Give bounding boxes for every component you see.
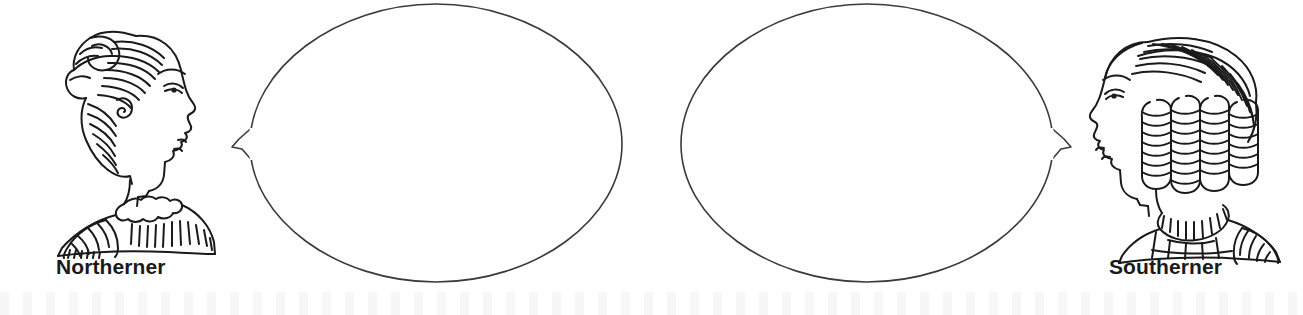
figure-label-northerner: Northerner [56,255,166,279]
worksheet-canvas: Northerner [0,0,1303,315]
speech-bubble-northerner-text[interactable] [288,70,578,215]
speech-bubble-southerner[interactable] [660,0,1075,288]
figure-label-southerner: Southerner [1109,255,1222,279]
speech-bubble-southerner-text[interactable] [715,70,1005,215]
speech-bubble-northerner[interactable] [228,0,640,288]
